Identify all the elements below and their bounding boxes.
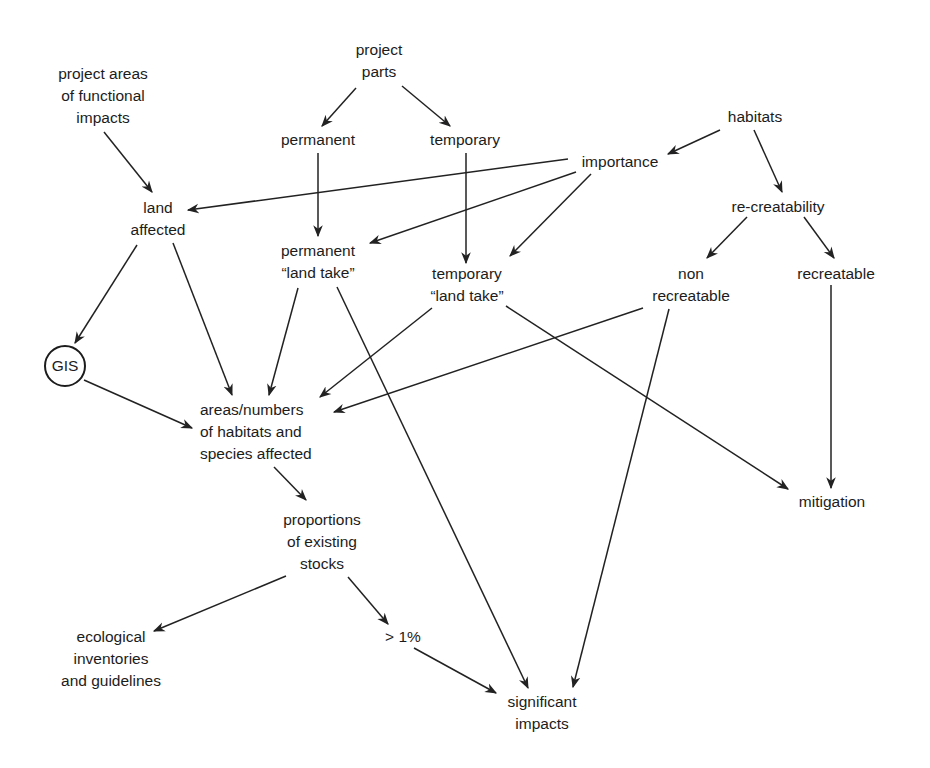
edge-project-parts-temporary — [402, 86, 450, 126]
node-recreatable: recreatable — [797, 263, 875, 285]
edge-permanent-land-take-areas — [269, 288, 298, 395]
edge-habitats-re-creatability — [754, 130, 782, 192]
habitat-impact-flowchart: project areas of functional impacts proj… — [0, 0, 930, 768]
edge-project-parts-permanent — [322, 88, 356, 126]
edge-non-recreatable-areas — [334, 308, 643, 412]
edge-proportions-gt1 — [348, 577, 388, 624]
edge-temporary-land-take-areas — [320, 308, 432, 397]
node-habitats: habitats — [728, 106, 782, 128]
node-importance: importance — [582, 151, 659, 173]
edge-gis-areas — [84, 380, 192, 428]
node-non-recreatable: non recreatable — [652, 263, 730, 307]
gis-label: GIS — [52, 357, 79, 375]
node-temporary: temporary — [430, 129, 500, 151]
edge-proportions-ecological — [154, 576, 286, 631]
node-gt-1-percent: > 1% — [385, 626, 421, 648]
node-gis: GIS — [44, 345, 86, 387]
node-significant-impacts: significant impacts — [508, 691, 577, 735]
node-project-parts: project parts — [356, 39, 403, 83]
edge-permanent-land-take-significant — [337, 287, 528, 688]
node-permanent-land-take: permanent “land take” — [281, 240, 355, 284]
edge-importance-land-affected — [188, 159, 568, 210]
node-re-creatability: re-creatability — [731, 196, 824, 218]
node-areas-numbers: areas/numbers of habitats and species af… — [200, 399, 312, 465]
node-ecological-inventories: ecological inventories and guidelines — [61, 626, 161, 692]
edge-importance-temporary-land-take — [510, 174, 591, 256]
edge-land-affected-gis — [75, 245, 137, 343]
node-proportions: proportions of existing stocks — [283, 509, 361, 575]
edge-areas-proportions — [274, 467, 306, 500]
edge-project-areas-land-affected — [104, 132, 152, 192]
node-permanent: permanent — [281, 129, 355, 151]
edge-importance-permanent-land-take — [370, 172, 576, 243]
node-mitigation: mitigation — [799, 491, 865, 513]
edge-gt1-significant — [414, 648, 496, 693]
edge-re-creatability-non-recreatable — [707, 217, 747, 258]
node-temporary-land-take: temporary “land take” — [430, 263, 503, 307]
edge-re-creatability-recreatable — [804, 217, 834, 258]
edge-non-recreatable-significant — [573, 309, 669, 687]
edge-land-affected-areas — [173, 243, 232, 395]
edge-habitats-importance — [668, 130, 720, 154]
node-project-areas: project areas of functional impacts — [58, 63, 148, 129]
node-land-affected: land affected — [131, 197, 186, 241]
